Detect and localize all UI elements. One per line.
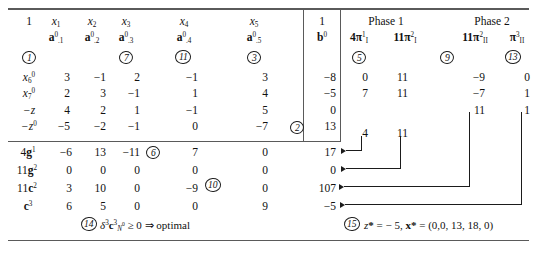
body-r2-c3: −1 (168, 105, 198, 117)
row-label-x7: x70 (14, 88, 44, 100)
arrow-4-to-4g1-head (341, 148, 346, 154)
body-r0-c2: 2 (110, 72, 140, 84)
row-label-minus-z: −z (14, 105, 44, 117)
body-r1-c2: −1 (110, 88, 140, 100)
lower-row-label-c3: c3 (10, 201, 46, 213)
optimality-annotation: δ3c3N0 ≥ 0 ⇒ optimal (100, 219, 190, 232)
step-marker-15: 15 (343, 216, 360, 231)
lower-r0-c3: 7 (168, 147, 198, 159)
body-r3-c2: −1 (110, 121, 140, 133)
optimality-tail: ≥ 0 ⇒ optimal (128, 219, 190, 231)
b-column-left-rule (303, 9, 304, 142)
body-r3-c4: −7 (238, 121, 268, 133)
body-r1-c4: 4 (238, 88, 268, 100)
body-r1-p0: 7 (346, 88, 368, 100)
lower-r3-c1: 5 (76, 201, 106, 213)
lower-r3-c3: 0 (168, 201, 198, 213)
lower-r0-c1: 13 (76, 147, 106, 159)
lower-row-label-11c2: 11c2 (8, 183, 46, 195)
body-r0-c1: −1 (76, 72, 106, 84)
body-r0-p3: 0 (508, 72, 530, 84)
arrow-11-to-11g2-head (341, 166, 346, 172)
arrow-11-to-11g2-vertical (400, 136, 401, 169)
body-r2-p3: 1 (508, 105, 530, 117)
body-r0-c4: 3 (238, 72, 268, 84)
body-r2-b: 0 (306, 105, 336, 117)
lower-r1-c3: 0 (168, 165, 198, 177)
arrow-11ii-to-11c2-vertical (469, 112, 470, 187)
step-marker-6: 6 (145, 145, 160, 159)
header-separator-rule (8, 141, 341, 142)
figure-root: 1 x1 x2 x3 x4 x5 1 a0.1 a0.2 a0.3 a0.4 a… (0, 0, 537, 256)
step-marker-5: 5 (351, 50, 366, 64)
body-r3-c0: −5 (42, 121, 70, 133)
body-r0-p1: 11 (386, 72, 408, 84)
phase2-label: Phase 2 (452, 16, 532, 28)
arrow-1ii-to-c3-vertical (521, 112, 522, 205)
header-b0: b0 (308, 32, 336, 44)
solution-x-value: (0,0, 13, 18, 0) (428, 219, 493, 231)
header-a3: a0.3 (112, 32, 140, 44)
arrow-4-to-4g1-vertical (361, 136, 362, 151)
lower-r3-c4: 9 (238, 201, 268, 213)
lower-r3-c2: 0 (106, 201, 140, 213)
row-label-x6: x60 (14, 72, 44, 84)
body-r1-p3: 1 (508, 88, 530, 100)
lower-r2-c3: −9 (168, 183, 198, 195)
arrow-11ii-to-11c2-head (339, 184, 344, 190)
bottom-rule (8, 240, 529, 241)
lower-r2-c1: 10 (76, 183, 106, 195)
body-r0-p0: 0 (346, 72, 368, 84)
header-var-x4: x4 (170, 16, 198, 28)
arrow-11-to-11g2-horizontal (346, 168, 401, 169)
lower-r0-c0: −6 (42, 147, 72, 159)
body-r3-c1: −2 (76, 121, 106, 133)
phase2-col1-header: 11π2II (452, 32, 498, 44)
body-r2-c1: 2 (76, 105, 106, 117)
top-rule (8, 8, 529, 10)
lower-r2-b: 107 (301, 183, 336, 195)
header-var-x1: x1 (42, 16, 70, 28)
header-var-x5: x5 (240, 16, 268, 28)
header-var-x3: x3 (112, 16, 140, 28)
step-marker-9: 9 (439, 50, 454, 64)
header-var-x2: x2 (78, 16, 106, 28)
step-marker-14: 14 (80, 216, 97, 231)
arrow-1ii-to-c3-horizontal (345, 204, 522, 205)
lower-row-label-11g2: 11g2 (8, 165, 46, 177)
arrow-1ii-to-c3-head (340, 202, 345, 208)
lower-r2-c2: 0 (106, 183, 140, 195)
header-a4: a0.4 (170, 32, 198, 44)
lower-r1-b: 0 (303, 165, 336, 177)
solution-z-value: − 5 (386, 219, 400, 231)
lower-r3-b: −5 (303, 201, 336, 213)
body-r0-b: −8 (306, 72, 336, 84)
lower-r2-c0: 3 (42, 183, 72, 195)
step-marker-7: 7 (118, 50, 133, 64)
body-r2-c0: 4 (42, 105, 70, 117)
lower-r1-c2: 0 (106, 165, 140, 177)
row-label-minus-z0: −z0 (14, 121, 44, 133)
body-r1-b: −5 (306, 88, 336, 100)
body-r3-p0: 4 (346, 128, 368, 140)
body-r1-p1: 11 (386, 88, 408, 100)
lower-r1-c0: 0 (42, 165, 72, 177)
body-r2-c2: 1 (110, 105, 140, 117)
lower-r3-c0: 6 (42, 201, 72, 213)
phase1-label: Phase 1 (346, 16, 426, 28)
body-r1-c3: 1 (168, 88, 198, 100)
header-one-left: 1 (16, 16, 42, 28)
body-r1-p2: −7 (455, 88, 485, 100)
step-marker-3: 3 (246, 50, 261, 64)
lower-row-label-4g1: 4g1 (10, 147, 46, 159)
step-marker-11: 11 (174, 49, 191, 64)
body-r2-c4: 5 (238, 105, 268, 117)
lower-r0-c4: 0 (238, 147, 268, 159)
step-marker-1: 1 (21, 50, 36, 64)
arrow-11ii-to-11c2-horizontal (344, 186, 470, 187)
lower-r0-c2: −11 (106, 147, 140, 159)
body-r3-b: 13 (306, 121, 336, 133)
phase1-col2-header: 11π2I (384, 32, 426, 44)
tableau-right-rule (340, 9, 341, 142)
phase1-col1-header: 4π1I (340, 32, 378, 44)
